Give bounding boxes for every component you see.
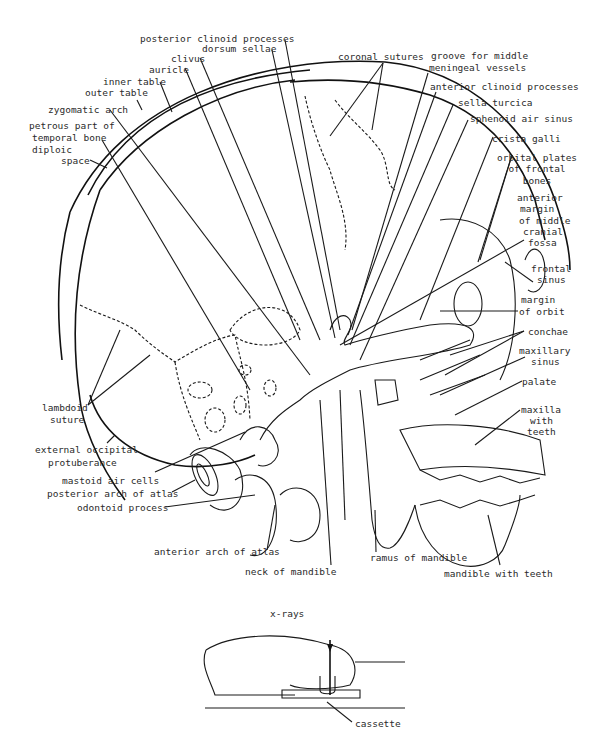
label-petrous-part-1: petrous part of xyxy=(29,120,115,131)
label-external-occipital-1: external occipital xyxy=(35,444,138,455)
label-orbital-plates-1: orbital plates xyxy=(497,152,577,163)
label-posterior-arch-of-atlas: posterior arch of atlas xyxy=(47,488,179,499)
label-x-rays: x-rays xyxy=(270,608,304,619)
label-sphenoid-air-sinus: sphenoid air sinus xyxy=(470,113,573,124)
label-clivus: clivus xyxy=(171,53,205,64)
label-sella-turcica: sella turcica xyxy=(458,97,532,108)
label-amcf-3: of middle xyxy=(519,215,570,226)
label-mastoid-air-cells: mastoid air cells xyxy=(62,475,159,486)
label-auricle: auricle xyxy=(149,64,189,75)
label-lambdoid-suture-2: suture xyxy=(50,414,84,425)
label-coronal-sutures: coronal sutures xyxy=(338,51,424,62)
label-palate: palate xyxy=(522,376,556,387)
label-crista-galli: crista galli xyxy=(492,133,561,144)
label-cassette: cassette xyxy=(355,718,401,729)
label-dorsum-sellae: dorsum sellae xyxy=(202,43,276,54)
label-amcf-4: cranial xyxy=(523,226,563,237)
label-groove-1: groove for middle xyxy=(431,50,528,61)
label-maxillary-sinus-1: maxillary xyxy=(519,345,570,356)
label-anterior-clinoid-processes: anterior clinoid processes xyxy=(430,81,579,92)
label-amcf-2: margin xyxy=(520,203,554,214)
label-external-occipital-2: protuberance xyxy=(48,457,117,468)
label-mandible-with-teeth: mandible with teeth xyxy=(444,568,553,579)
label-maxilla-1: maxilla xyxy=(521,404,561,415)
label-groove-2: meningeal vessels xyxy=(429,62,526,73)
label-inner-table: inner table xyxy=(103,76,166,87)
label-orbital-plates-3: bones xyxy=(497,175,577,186)
label-margin-of-orbit-1: margin xyxy=(521,294,555,305)
xray-tube xyxy=(320,676,335,694)
label-amcf-1: anterior xyxy=(517,192,563,203)
label-odontoid-process: odontoid process xyxy=(77,502,169,513)
label-zygomatic-arch: zygomatic arch xyxy=(48,104,128,115)
label-maxillary-sinus-2: sinus xyxy=(531,356,560,367)
label-petrous-part-2: temporal bone xyxy=(32,132,106,143)
label-orbital-plates-2: of frontal xyxy=(497,163,577,174)
label-conchae: conchae xyxy=(528,326,568,337)
label-diploic-1: diploic xyxy=(32,144,72,155)
label-amcf-5: fossa xyxy=(528,237,557,248)
label-outer-table: outer table xyxy=(85,87,148,98)
label-anterior-arch-of-atlas: anterior arch of atlas xyxy=(154,546,280,557)
label-diploic-2: space xyxy=(61,155,90,166)
label-frontal-sinus-1: frontal xyxy=(531,263,571,274)
label-maxilla-2: with xyxy=(530,415,553,426)
label-margin-of-orbit-2: of orbit xyxy=(519,306,565,317)
label-lambdoid-suture-1: lambdoid xyxy=(42,402,88,413)
label-frontal-sinus-2: sinus xyxy=(537,274,566,285)
label-ramus-of-mandible: ramus of mandible xyxy=(370,552,467,563)
label-neck-of-mandible: neck of mandible xyxy=(245,566,337,577)
label-maxilla-3: teeth xyxy=(527,426,556,437)
